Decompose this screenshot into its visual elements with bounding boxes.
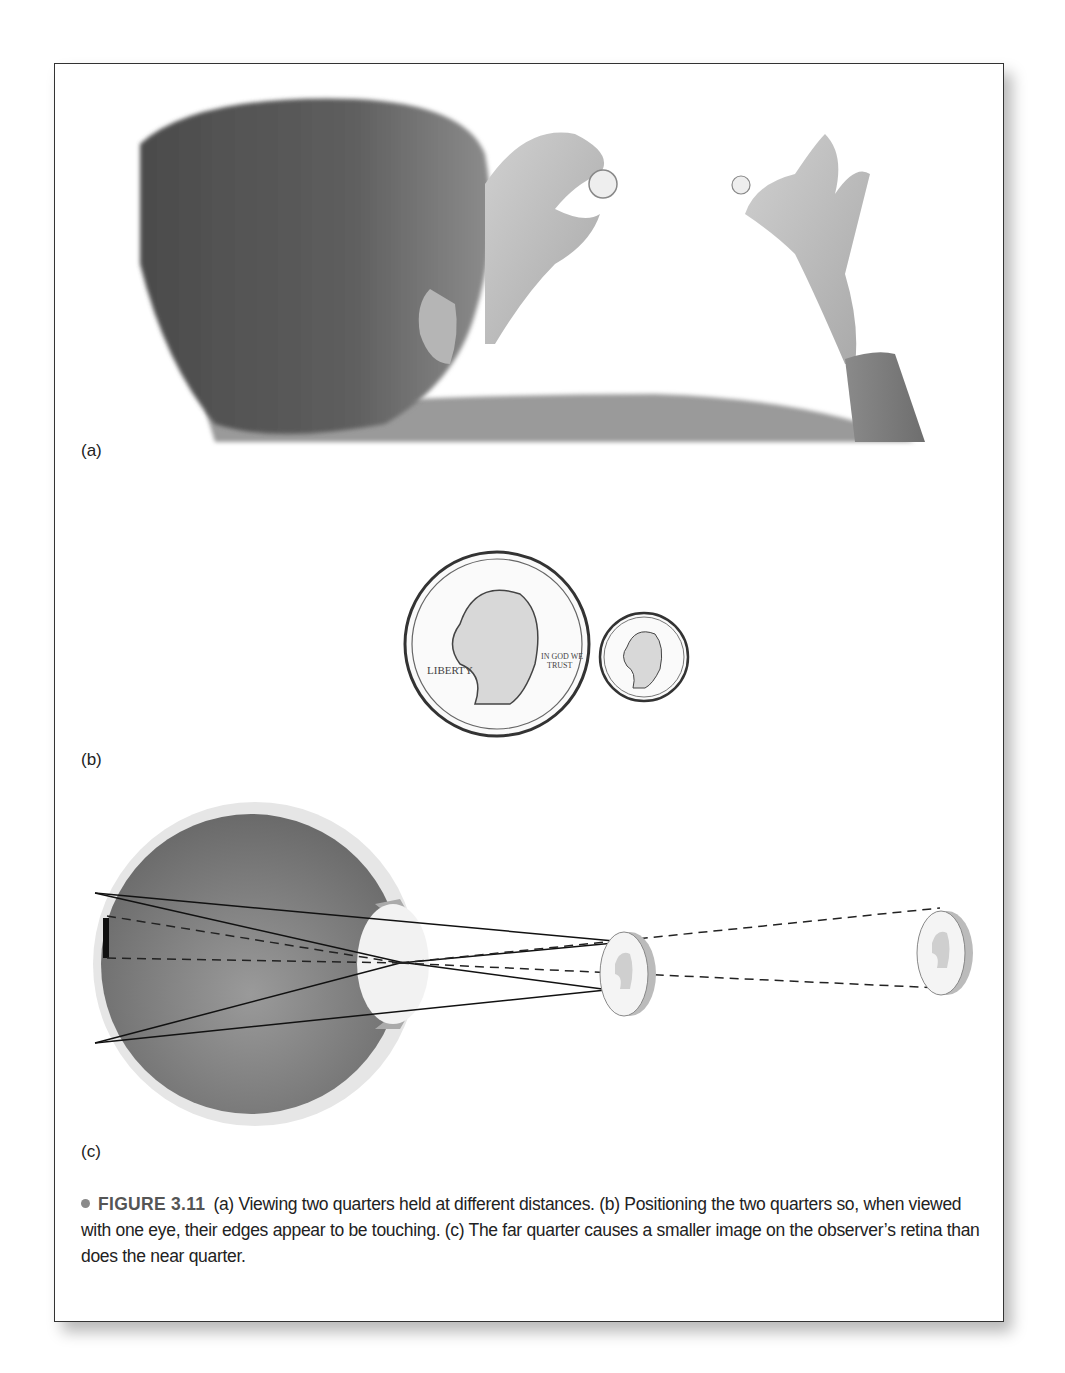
far-hand — [745, 134, 870, 364]
panel-a-label: (a) — [81, 441, 102, 461]
near-hand — [485, 133, 604, 344]
far-quarter-coin — [600, 613, 688, 701]
svg-text:TRUST: TRUST — [547, 661, 572, 670]
svg-text:IN GOD WE: IN GOD WE — [541, 652, 583, 661]
figure-number: FIGURE 3.11 — [98, 1194, 205, 1214]
far-quarter — [732, 176, 750, 194]
eyeball — [93, 802, 429, 1126]
figure-frame: (a) LIBERTY IN GOD WE TRUST (b) — [54, 63, 1004, 1322]
retinal-image — [103, 918, 109, 958]
panel-c-eye-diagram — [55, 814, 1005, 1174]
panel-c-label: (c) — [81, 1142, 101, 1162]
figure-caption: FIGURE 3.11(a) Viewing two quarters held… — [81, 1191, 981, 1269]
child-head — [140, 99, 491, 434]
near-quarter — [589, 170, 617, 198]
near-quarter-coin: LIBERTY IN GOD WE TRUST — [405, 552, 589, 736]
near-quarter-side — [600, 932, 656, 1016]
panel-b-quarters: LIBERTY IN GOD WE TRUST — [55, 554, 1005, 774]
far-quarter-side — [917, 911, 973, 995]
sleeve — [845, 352, 925, 442]
svg-text:LIBERTY: LIBERTY — [427, 664, 473, 676]
caption-text: (a) Viewing two quarters held at differe… — [81, 1194, 980, 1266]
panel-a-illustration — [55, 64, 1005, 464]
panel-b-label: (b) — [81, 750, 102, 770]
bullet-icon — [81, 1199, 90, 1208]
